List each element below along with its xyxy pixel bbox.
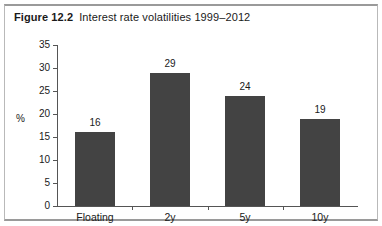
x-axis-tick (132, 206, 133, 210)
bar-chart-plot: % 05101520253035 16Floating292y245y1910y (0, 0, 382, 226)
y-axis-tick-label: 10 (22, 155, 50, 165)
y-axis-tick (53, 45, 57, 46)
y-axis-tick-label: 35 (22, 40, 50, 50)
y-axis-tick-label-text: 20 (22, 109, 50, 119)
bar (75, 132, 115, 206)
y-axis-tick-label-text: 35 (22, 40, 50, 50)
y-axis-tick (53, 68, 57, 69)
y-axis-tick (53, 137, 57, 138)
bar-value-label: 24 (220, 82, 270, 92)
y-axis-tick-label-text: 0 (22, 201, 50, 211)
y-axis-tick-label: 20 (22, 109, 50, 119)
x-axis-category-label: 5y (208, 212, 282, 223)
x-axis-category-label: 10y (283, 212, 357, 223)
y-axis-tick (53, 114, 57, 115)
y-axis-tick-label-text: 5 (22, 178, 50, 188)
y-axis-tick-label: 0 (22, 201, 50, 211)
y-axis-tick-label-text: 15 (22, 132, 50, 142)
y-axis-tick-label: 30 (22, 63, 50, 73)
bar-value-label: 19 (295, 105, 345, 115)
y-axis-tick (53, 206, 57, 207)
bar (300, 119, 340, 206)
x-axis-category-label: Floating (58, 212, 132, 223)
y-axis-tick (53, 160, 57, 161)
y-axis-tick (53, 91, 57, 92)
x-axis-tick (208, 206, 209, 210)
bar (225, 96, 265, 206)
bar-value-label: 16 (70, 118, 120, 128)
y-axis-tick-label: 15 (22, 132, 50, 142)
y-axis-tick-label-text: 30 (22, 63, 50, 73)
x-axis-category-label: 2y (133, 212, 207, 223)
y-axis-tick-label-text: 10 (22, 155, 50, 165)
y-axis-line (57, 45, 58, 207)
x-axis-tick (283, 206, 284, 210)
y-axis-tick-label: 5 (22, 178, 50, 188)
y-axis-tick (53, 183, 57, 184)
y-axis-tick-label-text: 25 (22, 86, 50, 96)
y-axis-tick-label: 25 (22, 86, 50, 96)
bar (150, 73, 190, 206)
bar-value-label: 29 (145, 59, 195, 69)
